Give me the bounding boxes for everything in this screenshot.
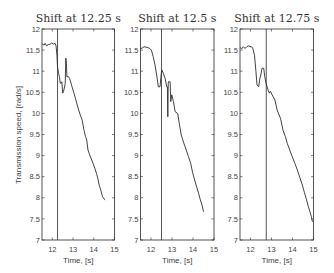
y-tick-label: 11.5 [224,46,238,55]
y-tick-label: 9.5 [228,130,238,139]
subplot-title: Shift at 12.25 s [36,12,122,25]
y-tick-label: 10.5 [124,88,139,97]
series-line-transmission-speed [141,47,204,212]
y-tick-label: 11 [230,67,238,76]
y-tick-label: 8.5 [228,172,238,181]
subplot-2: Shift at 12.5 s1211.51110.5109.598.587.5… [124,12,218,265]
y-tick-label: 9.5 [30,130,40,139]
x-tick-label: 14 [189,245,197,254]
y-tick-label: 10 [130,109,138,118]
y-tick-label: 10 [230,109,238,118]
y-tick-label: 8 [36,193,40,202]
y-tick-label: 7.5 [30,215,40,224]
x-tick-label: 13 [267,245,275,254]
x-tick-label: 13 [168,245,176,254]
y-tick-label: 11.5 [26,46,40,55]
y-tick-label: 7.5 [228,215,238,224]
y-tick-label: 11 [32,67,40,76]
y-tick-label: 10 [32,109,40,118]
y-tick-label: 11 [131,67,139,76]
x-tick-label: 13 [69,245,77,254]
series-line-transmission-speed [42,43,105,200]
y-tick-label: 7 [134,236,138,245]
x-tick-label: 12 [48,245,56,254]
x-tick-label: 14 [90,245,98,254]
y-tick-label: 11.5 [124,46,138,55]
subplot-3: Shift at 12.75 s1211.51110.5109.598.587.… [223,12,319,265]
x-tick-label: 14 [288,245,296,254]
subplots: Shift at 12.25 s1211.51110.5109.598.587.… [25,12,319,265]
x-axis-label: Time, [s] [262,256,292,265]
y-tick-label: 7 [36,236,40,245]
y-tick-label: 7.5 [128,215,138,224]
figure: Transmission speed, [rad/s] Shift at 12.… [0,0,334,273]
y-tick-label: 12 [130,25,138,34]
y-tick-label: 12 [32,25,40,34]
y-tick-label: 10.5 [223,88,238,97]
y-tick-label: 9.5 [128,130,138,139]
y-tick-label: 12 [230,25,238,34]
x-axis-label: Time, [s] [162,256,192,265]
x-axis-label: Time, [s] [63,256,93,265]
subplot-title: Shift at 12.5 s [138,12,217,25]
y-tick-label: 7 [234,236,238,245]
y-tick-label: 9 [36,151,40,160]
axes-frame [240,29,314,240]
x-tick-label: 12 [147,245,155,254]
x-tick-label: 15 [210,245,218,254]
subplot-1: Shift at 12.25 s1211.51110.5109.598.587.… [25,12,121,265]
x-tick-label: 15 [309,245,317,254]
y-tick-label: 9 [234,151,238,160]
y-axis-label: Transmission speed, [rad/s] [14,86,23,184]
y-tick-label: 8.5 [30,172,40,181]
x-tick-label: 12 [246,245,254,254]
y-tick-label: 8 [234,193,238,202]
series-line-transmission-speed [240,46,312,222]
y-tick-label: 8.5 [128,172,138,181]
x-tick-label: 15 [110,245,118,254]
axes-frame [42,29,115,240]
y-tick-label: 10.5 [25,88,40,97]
y-tick-label: 8 [134,193,138,202]
subplot-title: Shift at 12.75 s [234,12,320,25]
y-tick-label: 9 [134,151,138,160]
